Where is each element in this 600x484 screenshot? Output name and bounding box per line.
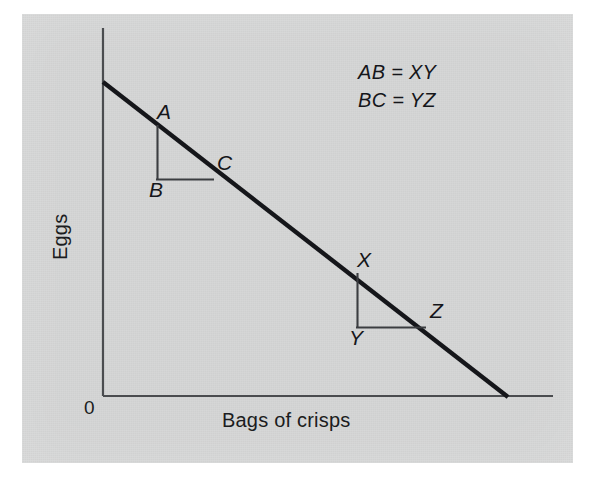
point-label-b: B xyxy=(149,179,163,200)
point-label-y: Y xyxy=(349,327,363,348)
slope-triangle-xyz xyxy=(356,273,426,328)
annotation-line-2: BC = YZ xyxy=(358,86,436,114)
point-label-c: C xyxy=(217,152,232,173)
point-label-a: A xyxy=(157,101,171,122)
y-axis-label: Eggs xyxy=(50,214,70,260)
annotation-line-1: AB = XY xyxy=(358,58,436,86)
figure-root: A B C X Y Z Eggs Bags of crisps 0 AB = X… xyxy=(0,0,600,484)
point-label-x: X xyxy=(357,249,371,270)
origin-label: 0 xyxy=(84,398,95,417)
budget-line xyxy=(103,82,508,397)
point-label-z: Z xyxy=(430,300,443,321)
slope-triangle-abc xyxy=(156,125,214,180)
x-axis-label: Bags of crisps xyxy=(222,410,350,430)
equation-annotations: AB = XY BC = YZ xyxy=(358,58,436,115)
